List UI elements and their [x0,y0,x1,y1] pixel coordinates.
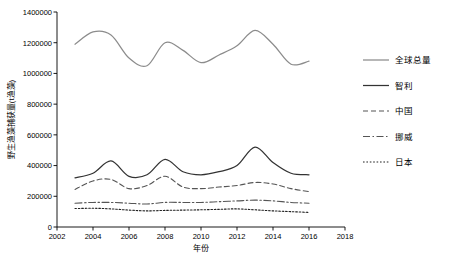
x-tick-label: 2004 [85,232,102,241]
x-tick-label: 2008 [157,232,174,241]
y-tick-label: 1000000 [23,69,52,78]
series-line-1 [75,147,309,178]
x-tick-label: 2002 [49,232,66,241]
line-chart: 0200000400000600000800000100000012000001… [0,0,470,265]
series-line-3 [75,200,309,204]
y-tick-label: 200000 [27,192,52,201]
y-tick-label: 400000 [27,161,52,170]
y-tick-label: 800000 [27,100,52,109]
series-line-4 [75,208,309,212]
y-tick-label: 600000 [27,131,52,140]
legend-label-2[interactable]: 中国 [395,106,413,116]
series-line-2 [75,176,309,191]
legend-label-0[interactable]: 全球总量 [395,55,431,65]
legend-label-3[interactable]: 挪威 [395,132,413,142]
x-tick-label: 2018 [337,232,354,241]
axes [57,12,345,227]
x-axis-title: 年份 [193,243,209,253]
y-tick-label: 0 [48,223,52,232]
x-tick-label: 2014 [265,232,282,241]
y-tick-label: 1200000 [23,39,52,48]
series-line-0 [75,30,309,66]
y-axis-title: 野生渔藻捕获量(t渔藻) [6,79,16,159]
legend-label-4[interactable]: 日本 [395,157,413,167]
chart-container: 0200000400000600000800000100000012000001… [0,0,470,265]
x-tick-label: 2012 [229,232,246,241]
x-tick-label: 2016 [301,232,318,241]
x-tick-label: 2010 [193,232,210,241]
x-tick-label: 2006 [121,232,138,241]
y-tick-label: 1400000 [23,8,52,17]
legend-label-1[interactable]: 智利 [395,81,413,91]
